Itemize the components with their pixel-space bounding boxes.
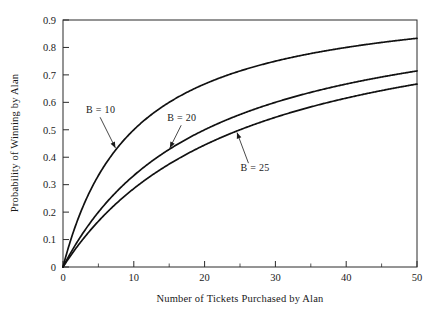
x-tick-label-20: 20 [199,272,210,283]
curve-b10 [63,38,417,267]
y-tick-label-0.6: 0.6 [43,97,56,108]
y-axis-title: Probability of Winning by Alan [9,73,20,212]
y-tick-label-0: 0 [51,262,56,273]
y-axis-major-ticks [63,20,69,267]
x-tick-label-0: 0 [60,272,65,283]
x-axis-title: Number of Tickets Purchased by Alan [156,293,324,304]
annotation-arrowhead-b25 [237,133,241,139]
y-tick-label-0.5: 0.5 [43,125,56,136]
y-tick-label-0.9: 0.9 [43,15,56,26]
y-tick-label-0.4: 0.4 [43,152,57,163]
data-curves [63,38,417,267]
annotation-label-b20: B = 20 [167,112,196,123]
curve-b25 [63,84,417,267]
x-axis-tick-labels: 01020304050 [60,272,422,283]
y-tick-label-0.3: 0.3 [43,179,56,190]
chart-figure: 01020304050 00.10.20.30.40.50.60.70.80.9… [0,0,443,317]
y-tick-label-0.8: 0.8 [43,42,56,53]
x-tick-label-50: 50 [412,272,423,283]
y-tick-label-0.1: 0.1 [43,234,56,245]
x-tick-label-30: 30 [270,272,281,283]
y-tick-label-0.7: 0.7 [43,70,56,81]
annotation-label-b25: B = 25 [240,162,269,173]
annotation-label-b10: B = 10 [86,104,115,115]
y-tick-label-0.2: 0.2 [43,207,56,218]
x-tick-label-10: 10 [129,272,140,283]
x-axis-minor-ticks [98,264,381,268]
y-axis-tick-labels: 00.10.20.30.40.50.60.70.80.9 [43,15,57,273]
probability-line-chart: 01020304050 00.10.20.30.40.50.60.70.80.9… [0,0,443,317]
x-tick-label-40: 40 [341,272,352,283]
plot-frame [63,20,417,267]
annotation-arrowhead-b10 [111,141,116,147]
